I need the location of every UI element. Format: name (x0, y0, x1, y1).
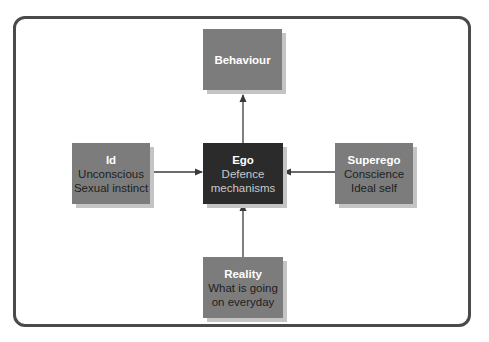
node-ego-title: Ego (232, 153, 254, 167)
node-id: Id Unconscious Sexual instinct (72, 143, 150, 204)
node-ego-line-1: Defence (222, 167, 265, 181)
node-reality-title: Reality (224, 267, 262, 281)
node-id-title: Id (106, 153, 116, 167)
node-ego-line-2: mechanisms (211, 181, 276, 195)
node-superego-line-2: Ideal self (351, 181, 397, 195)
node-reality-line-1: What is going (208, 281, 278, 295)
node-superego: Superego Conscience Ideal self (335, 143, 413, 204)
node-behaviour: Behaviour (203, 29, 282, 90)
node-ego: Ego Defence mechanisms (203, 143, 283, 204)
node-superego-title: Superego (347, 153, 400, 167)
node-superego-line-1: Conscience (344, 167, 404, 181)
node-behaviour-title: Behaviour (214, 53, 270, 67)
node-id-line-2: Sexual instinct (74, 181, 148, 195)
node-reality-line-2: on everyday (212, 295, 275, 309)
node-reality: Reality What is going on everyday (203, 257, 283, 318)
node-id-line-1: Unconscious (78, 167, 144, 181)
